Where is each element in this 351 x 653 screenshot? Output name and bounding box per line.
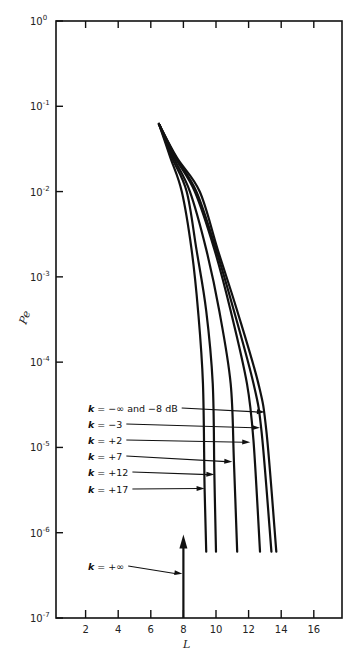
label-k-inf-arrow <box>128 566 176 574</box>
x-tick-label: 4 <box>115 624 121 635</box>
label-series-5: k = +17 <box>88 484 128 495</box>
label-series-4-arrow <box>132 472 208 475</box>
x-tick-label: 16 <box>307 624 320 635</box>
label-series-4: k = +12 <box>88 467 128 478</box>
y-tick-label: 10-3 <box>30 270 50 283</box>
y-axis-title: Pe <box>16 309 33 327</box>
y-tick-label: 100 <box>30 14 47 27</box>
y-tick-label: 10-2 <box>30 185 50 198</box>
label-series-5-arrow <box>132 488 198 489</box>
label-k-inf: k = +∞ <box>88 561 124 572</box>
y-tick-label: 10-7 <box>30 611 50 624</box>
arrowhead-icon <box>252 425 260 430</box>
y-tick-label: 10-4 <box>30 355 50 368</box>
y-axis-ticks: 10010-110-210-310-410-510-610-7 <box>30 14 63 624</box>
x-tick-label: 8 <box>180 624 186 635</box>
x-axis-ticks: 246810121416 <box>82 21 320 635</box>
x-tick-label: 14 <box>275 624 288 635</box>
arrowhead-icon <box>179 535 187 549</box>
curves <box>159 124 276 618</box>
y-tick-label: 10-5 <box>30 440 50 453</box>
label-series-3-arrow <box>126 456 226 462</box>
label-series-2-arrow <box>126 440 244 442</box>
curve-0 <box>159 124 276 552</box>
y-tick-label: 10-6 <box>30 526 50 539</box>
label-series-2: k = +2 <box>88 435 122 446</box>
annotation-labels: k = −∞ and −8 dBk = −3k = +2k = +7k = +1… <box>88 403 265 576</box>
arrowhead-icon <box>224 459 232 464</box>
x-tick-label: 10 <box>210 624 223 635</box>
arrowhead-icon <box>242 440 250 445</box>
x-tick-label: 6 <box>148 624 154 635</box>
label-series-1: k = −3 <box>88 419 122 430</box>
x-tick-label: 12 <box>242 624 255 635</box>
y-tick-label: 10-1 <box>30 99 50 112</box>
x-axis-title: L <box>182 638 190 651</box>
label-series-3: k = +7 <box>88 451 122 462</box>
chart: 10010-110-210-310-410-510-610-7 24681012… <box>0 0 351 653</box>
arrowhead-icon <box>174 570 182 575</box>
label-series-0-arrow <box>182 408 259 412</box>
arrowhead-icon <box>197 486 205 491</box>
arrowhead-icon <box>206 472 214 477</box>
label-series-0: k = −∞ and −8 dB <box>88 403 178 414</box>
label-series-1-arrow <box>126 424 254 428</box>
x-tick-label: 2 <box>82 624 88 635</box>
